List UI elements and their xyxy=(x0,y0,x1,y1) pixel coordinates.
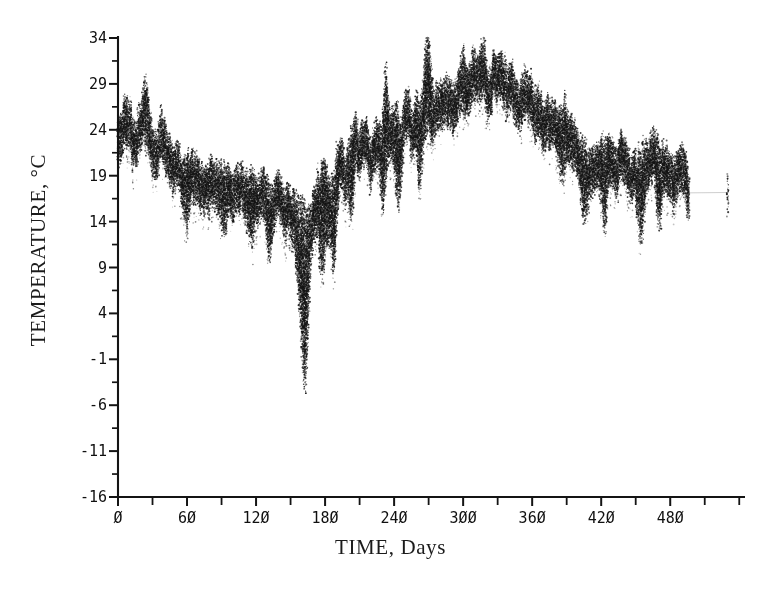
y-tick-label: 14 xyxy=(61,213,107,231)
temperature-time-series-chart xyxy=(0,0,781,591)
x-tick-label: 42Ø xyxy=(571,509,631,527)
y-axis-title: TEMPERATURE, °C xyxy=(26,154,51,346)
y-axis-title-container: TEMPERATURE, °C xyxy=(16,0,60,500)
x-tick-label: Ø xyxy=(88,509,148,527)
x-tick-label: 3ØØ xyxy=(433,509,493,527)
figure-page: TEMPERATURE, °C TIME, Days 342924191494-… xyxy=(0,0,781,591)
y-tick-label: -16 xyxy=(61,488,107,506)
y-tick-label: -6 xyxy=(61,396,107,414)
y-tick-label: -11 xyxy=(61,442,107,460)
y-tick-label: 19 xyxy=(61,167,107,185)
x-tick-label: 18Ø xyxy=(295,509,355,527)
y-tick-label: 24 xyxy=(61,121,107,139)
y-tick-label: 29 xyxy=(61,75,107,93)
x-tick-label: 6Ø xyxy=(157,509,217,527)
x-tick-label: 24Ø xyxy=(364,509,424,527)
y-tick-label: -1 xyxy=(61,350,107,368)
x-tick-label: 12Ø xyxy=(226,509,286,527)
y-tick-label: 4 xyxy=(61,304,107,322)
y-tick-label: 9 xyxy=(61,259,107,277)
x-axis-title: TIME, Days xyxy=(0,535,781,560)
y-tick-label: 34 xyxy=(61,29,107,47)
x-tick-label: 36Ø xyxy=(502,509,562,527)
x-tick-label: 48Ø xyxy=(640,509,700,527)
